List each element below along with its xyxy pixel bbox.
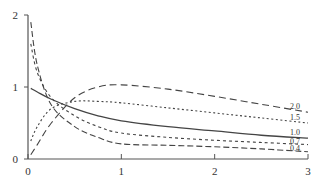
y-tick-label: 2 — [13, 9, 19, 21]
series-line-0.7 — [31, 44, 308, 145]
x-tick-label: 3 — [305, 165, 311, 177]
series-label-0.4: 0.4 — [290, 144, 300, 153]
y-tick-label: 1 — [13, 81, 19, 93]
series-line-0.4 — [31, 22, 308, 152]
line-chart: 01230122.01.51.00.70.4 — [0, 0, 320, 186]
y-tick-label: 0 — [13, 153, 19, 165]
series-label-2.0: 2.0 — [290, 102, 300, 111]
x-tick-label: 0 — [25, 165, 31, 177]
chart: 01230122.01.51.00.70.4 — [0, 0, 320, 186]
x-tick-label: 1 — [119, 165, 125, 177]
series-line-2.0 — [31, 85, 308, 155]
x-tick-label: 2 — [212, 165, 218, 177]
series-line-1.0 — [31, 88, 308, 138]
series-label-1.5: 1.5 — [290, 113, 300, 122]
